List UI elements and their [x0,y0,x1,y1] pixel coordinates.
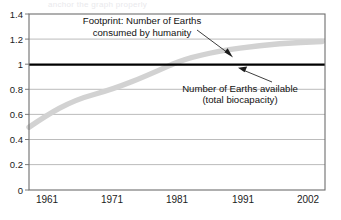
x-axis-label-1971: 1971 [101,194,124,205]
y-axis-labels: 1.4 1.2 1 0.8 0.6 0.4 0.2 0 [10,9,23,196]
x-axis-label-1981: 1981 [166,194,189,205]
y-axis-label-1: 1 [18,59,23,70]
x-axis-label-2002: 2002 [297,194,320,205]
y-axis-label-0-2: 0.2 [10,159,23,170]
biocapacity-annotation-line1: Number of Earths available [182,83,298,94]
footprint-annotation-line2: consumed by humanity [93,27,192,38]
x-axis-label-1991: 1991 [232,194,255,205]
y-axis-label-0-6: 0.6 [10,109,23,120]
y-axis-label-0-8: 0.8 [10,84,23,95]
y-axis-label-0: 0 [18,185,23,196]
y-tick-marks [25,14,29,190]
footprint-annotation-line1: Footprint: Number of Earths [83,15,202,26]
y-axis-label-1-4: 1.4 [10,9,23,20]
x-axis-label-1961: 1961 [36,194,59,205]
y-axis-label-1-2: 1.2 [10,34,23,45]
x-axis-labels: 1961 1971 1981 1991 2002 [36,194,320,205]
footprint-biocapacity-chart: anchor the graph properly [0,0,341,220]
biocapacity-annotation-line2: (total biocapacity) [202,94,277,105]
y-axis-label-0-4: 0.4 [10,134,23,145]
chart-svg: 1.4 1.2 1 0.8 0.6 0.4 0.2 0 1961 1971 19… [0,0,341,220]
